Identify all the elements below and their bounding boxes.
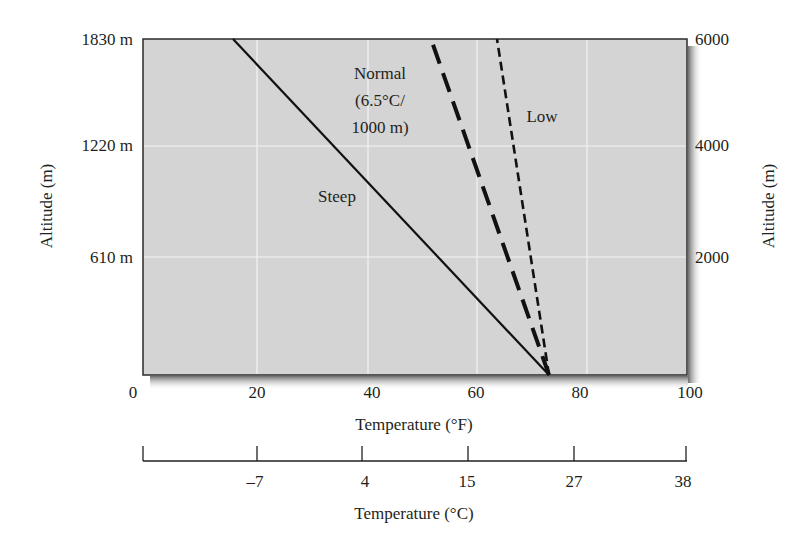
annotation-normal-line1: Normal — [354, 64, 406, 83]
annotation-low: Low — [526, 107, 558, 126]
y-left-tick-1220: 1220 m — [82, 136, 133, 155]
x-c-tick-38: 38 — [675, 472, 692, 491]
x-f-tick-20: 20 — [249, 383, 266, 402]
annotation-normal-line2: (6.5°C/ — [355, 91, 405, 110]
plot-shadow-bottom — [150, 376, 688, 390]
x-f-tick-80: 80 — [572, 383, 589, 402]
y-right-tick-2000: 2000 — [695, 248, 729, 267]
y-left-tick-1830: 1830 m — [82, 30, 133, 49]
x-c-tick-4: 4 — [361, 472, 370, 491]
y-left-tick-610: 610 m — [90, 248, 133, 267]
celsius-scale-bar — [143, 446, 687, 461]
annotation-steep: Steep — [318, 187, 356, 206]
y-right-tick-6000: 6000 — [695, 30, 729, 49]
x-c-axis-title: Temperature (°C) — [354, 504, 473, 523]
y-right-axis-title: Altitude (m) — [759, 164, 778, 249]
x-c-tick-27: 27 — [566, 472, 584, 491]
x-c-tick-15: 15 — [459, 472, 476, 491]
x-c-tick-minus7: –7 — [246, 472, 265, 491]
annotation-normal-line3: 1000 m) — [351, 118, 408, 137]
plot-shadow-right — [688, 46, 702, 383]
x-f-tick-0: 0 — [129, 383, 138, 402]
y-right-tick-4000: 4000 — [695, 136, 729, 155]
x-f-axis-title: Temperature (°F) — [355, 415, 472, 434]
plot-area — [143, 39, 687, 375]
x-f-tick-60: 60 — [468, 383, 485, 402]
lapse-rate-chart: Normal (6.5°C/ 1000 m) Low Steep 1830 m … — [0, 0, 812, 548]
x-f-tick-100: 100 — [677, 383, 703, 402]
y-left-axis-title: Altitude (m) — [37, 164, 56, 249]
x-f-tick-40: 40 — [364, 383, 381, 402]
